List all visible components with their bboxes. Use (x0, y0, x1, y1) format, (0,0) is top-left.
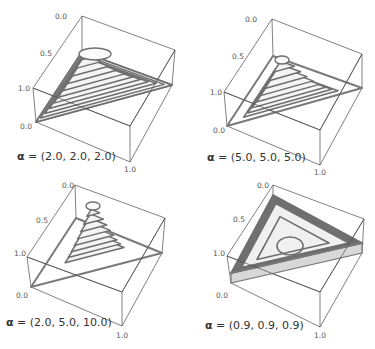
axis-tick-label: 0.0 (245, 15, 257, 24)
surface-peak (79, 48, 111, 60)
alpha-values: = (2.0, 5.0, 10.0) (14, 316, 112, 329)
axis-tick-label: 0.0 (216, 291, 228, 300)
axis-tick-label: 0.0 (55, 12, 67, 21)
axis-tick-label: 0.0 (213, 126, 225, 135)
axis-tick-label: 1.0 (18, 84, 30, 93)
axis-box-edge (172, 50, 175, 85)
axis-tick-label: 1.0 (314, 331, 326, 340)
alpha-parameter-label: α = (5.0, 5.0, 5.0) (207, 151, 306, 164)
alpha-parameter-label: α = (2.0, 2.0, 2.0) (17, 150, 116, 163)
axis-tick-label: 1.0 (124, 165, 136, 174)
axis-box-edge (82, 16, 175, 50)
axis-box-edge (27, 185, 75, 257)
axis-tick-label: 0.0 (257, 181, 269, 190)
axis-box-edge (27, 257, 31, 287)
axis-tick-label: 1.0 (314, 168, 326, 177)
axis-tick-label: 1.0 (14, 249, 26, 258)
surface-plot-panel: 0.00.51.00.01.0α = (2.0, 5.0, 10.0) (6, 181, 165, 340)
axis-tick-label: 1.0 (213, 249, 225, 258)
axis-tick-label: 0.5 (40, 49, 52, 58)
axis-box-edge (272, 19, 273, 56)
axis-tick-label: 0.0 (62, 181, 74, 190)
axis-box-edge (320, 253, 362, 327)
axis-box-edge (75, 185, 76, 218)
axis-box-edge (224, 92, 227, 126)
alpha-values: = (2.0, 2.0, 2.0) (25, 150, 116, 163)
alpha-values: = (5.0, 5.0, 5.0) (215, 151, 306, 164)
surface-plot-panel: 0.00.51.00.01.0α = (5.0, 5.0, 5.0) (207, 15, 362, 177)
axis-tick-label: 0.0 (20, 122, 32, 131)
axis-box-edge (27, 257, 122, 292)
axis-box-edge (33, 88, 36, 122)
surface-peak (275, 56, 289, 64)
axis-box-edge (130, 85, 172, 162)
axis-box-edge (320, 88, 362, 165)
surface-plot-panel: 0.00.51.00.01.0α = (2.0, 2.0, 2.0) (17, 12, 175, 174)
dirichlet-figure: 0.00.51.00.01.0α = (2.0, 2.0, 2.0)0.00.5… (0, 0, 375, 349)
axis-box-edge (162, 218, 165, 253)
axis-box-edge (122, 253, 162, 326)
axis-tick-label: 0.0 (16, 291, 28, 300)
alpha-parameter-label: α = (0.9, 0.9, 0.9) (205, 319, 304, 332)
axis-tick-label: 0.5 (232, 52, 244, 61)
axis-tick-label: 0.5 (36, 216, 48, 225)
alpha-parameter-label: α = (2.0, 5.0, 10.0) (6, 316, 112, 329)
alpha-values: = (0.9, 0.9, 0.9) (213, 319, 304, 332)
axis-tick-label: 1.0 (210, 88, 222, 97)
axis-tick-label: 1.0 (116, 331, 128, 340)
surface-peak (86, 202, 100, 210)
surface-plot-panel: 0.00.51.00.01.0α = (0.9, 0.9, 0.9) (205, 181, 364, 340)
axis-box-edge (272, 19, 362, 54)
axis-box-edge (122, 218, 165, 292)
axis-tick-label: 0.5 (233, 215, 245, 224)
